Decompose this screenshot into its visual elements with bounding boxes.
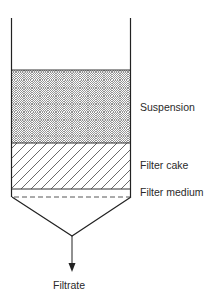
suspension-label: Suspension	[140, 102, 195, 113]
filtrate-label: Filtrate	[53, 280, 85, 291]
filter-medium-label: Filter medium	[140, 187, 204, 198]
filtrate-arrow-head-icon	[69, 263, 76, 272]
filter-cake-layer	[12, 143, 130, 189]
suspension-layer	[12, 70, 130, 143]
filtration-vessel-diagram	[0, 0, 218, 299]
funnel-outline	[12, 197, 131, 236]
filter-cake-label: Filter cake	[140, 160, 188, 171]
